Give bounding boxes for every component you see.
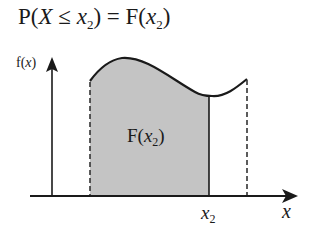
area-label: F(x2) — [127, 125, 165, 149]
x-axis-label: x — [281, 200, 291, 222]
x2-label: x2 — [200, 202, 215, 226]
density-diagram: f(x) F(x2) x2 x — [0, 0, 311, 235]
y-axis-label: f(x) — [16, 55, 37, 71]
